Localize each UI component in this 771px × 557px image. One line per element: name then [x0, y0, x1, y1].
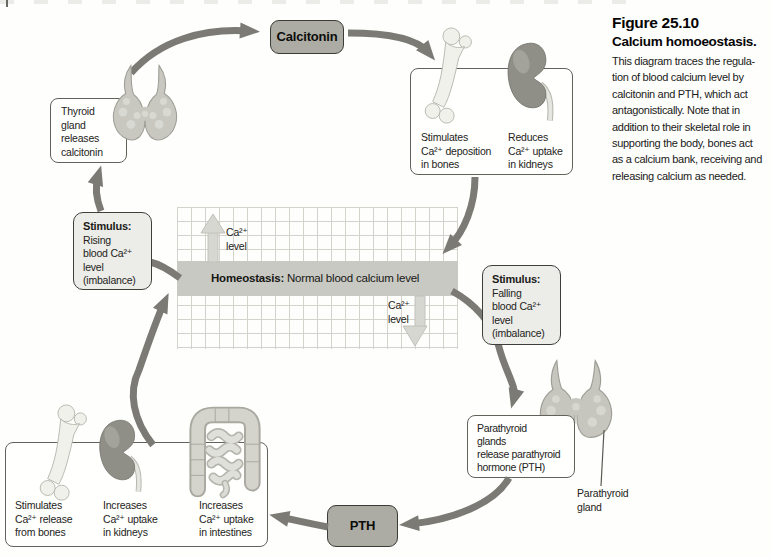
parathyroid-pointer-line — [601, 430, 604, 486]
kidney-icon — [96, 414, 144, 498]
figure-caption-text: This diagram traces the regula- tion of … — [612, 53, 771, 184]
femur-bone-icon — [420, 27, 478, 125]
arrow-rising-to-thyroid — [96, 176, 101, 211]
arrow-pth-to-effects — [280, 517, 328, 527]
figure-caption-block: Figure 25.10 Calcium homoeostasis. This … — [612, 14, 771, 184]
arrow-calcitonin-to-effects — [348, 33, 428, 52]
figure-number: Figure 25.10 — [612, 14, 771, 32]
arrow-effects-to-band — [450, 177, 475, 246]
parathyroid-gland-label: Parathyroid gland — [577, 487, 629, 514]
figure-title: Calcium homoeostasis. — [612, 34, 771, 49]
kidney-icon — [504, 36, 556, 128]
thyroid-gland-icon — [101, 60, 189, 150]
ca-level-down-label: Ca²⁺ level — [388, 299, 410, 326]
ca-level-up-label: Ca²⁺ level — [226, 226, 248, 253]
diagram-canvas: Homeostasis: Normal blood calcium level — [0, 0, 771, 557]
femur-bone-icon — [38, 404, 90, 502]
large-intestine-icon — [186, 404, 264, 499]
arrow-parathyroid-to-pth — [410, 478, 509, 524]
